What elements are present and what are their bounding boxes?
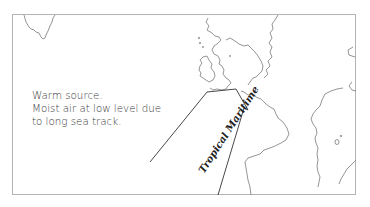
ireland-coastline: [199, 56, 215, 82]
great-britain-coastline: [206, 18, 231, 90]
caption-line-3: to long sea track.: [32, 115, 182, 128]
coastline-lower-right: [339, 160, 356, 184]
small-island-right-2: [349, 82, 356, 91]
small-island-right: [348, 47, 355, 57]
norway-coast-east: [264, 15, 278, 78]
island-a: [335, 140, 339, 145]
island-c: [198, 37, 199, 38]
coastline-east: [311, 88, 343, 187]
arrow-top-edge: [207, 89, 236, 92]
island-e: [202, 46, 203, 47]
greenland-coastline: [24, 15, 55, 39]
island-d: [199, 42, 200, 43]
scandinavia-coastline: [226, 38, 263, 85]
caption-line-1: Warm source.: [32, 89, 182, 102]
air-mass-description: Warm source. Moist air at low level due …: [32, 89, 182, 129]
island-b: [340, 135, 342, 137]
caption-line-2: Moist air at low level due: [32, 102, 182, 115]
island-f: [229, 55, 230, 56]
